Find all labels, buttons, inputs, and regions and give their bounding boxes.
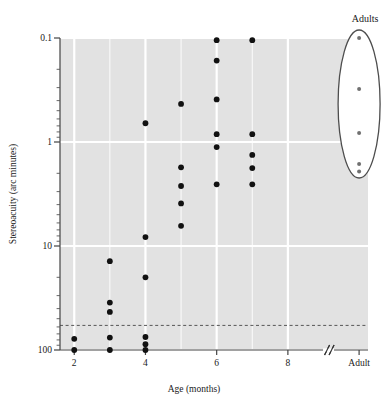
data-point-age7-28 — [249, 181, 255, 187]
y-axis: 0.1110100 — [38, 33, 60, 355]
x-tick-label-1: 4 — [143, 358, 148, 368]
data-point-age4-7 — [143, 120, 149, 126]
x-tick-label-4: Adult — [348, 358, 370, 368]
x-tick-label-3: 8 — [286, 358, 291, 368]
y-tick-label-3: 100 — [38, 345, 53, 355]
data-point-age5-16 — [178, 201, 184, 207]
data-point-age5-13 — [178, 101, 184, 107]
data-point-adult-top-0 — [357, 36, 361, 40]
data-point-age4-10 — [143, 334, 149, 340]
data-point-age7-24 — [249, 37, 255, 43]
data-point-age4-8 — [143, 234, 149, 240]
data-point-age6-18 — [214, 37, 220, 43]
data-point-age6-22 — [214, 144, 220, 150]
data-point-age7-25 — [249, 131, 255, 137]
y-tick-label-2: 10 — [43, 241, 53, 251]
data-point-age3-6 — [107, 347, 113, 353]
data-point-age6-21 — [214, 131, 220, 137]
data-point-adult-top-2 — [357, 131, 361, 135]
stereoacuity-scatter-chart: 0.1110100 2468Adult Adults Age (months)S… — [0, 0, 384, 399]
y-axis-title: Stereoacuity (arc minutes) — [8, 144, 19, 244]
data-point-age6-23 — [214, 181, 220, 187]
chart-canvas: 0.1110100 2468Adult Adults Age (months)S… — [0, 0, 384, 399]
data-point-age5-15 — [178, 183, 184, 189]
data-point-adult-top-4 — [357, 169, 361, 173]
plot-area-rect — [60, 38, 368, 350]
data-point-age4-11 — [143, 341, 149, 347]
data-point-age4-9 — [143, 274, 149, 280]
data-point-age3-3 — [107, 300, 113, 306]
data-point-age7-27 — [249, 165, 255, 171]
data-point-age5-17 — [178, 223, 184, 229]
y-tick-label-0: 0.1 — [40, 33, 52, 43]
y-tick-label-1: 1 — [47, 137, 52, 147]
data-point-age7-26 — [249, 152, 255, 158]
plot-background — [60, 38, 368, 350]
adults-annotation-label: Adults — [352, 13, 379, 24]
data-point-age6-19 — [214, 58, 220, 64]
data-point-age6-20 — [214, 97, 220, 103]
data-point-age2-0 — [71, 336, 77, 342]
adults-ellipse — [338, 30, 380, 178]
data-point-age5-14 — [178, 164, 184, 170]
x-tick-label-0: 2 — [72, 358, 77, 368]
data-point-age4-12 — [143, 347, 149, 353]
data-point-age2-1 — [71, 347, 77, 353]
data-point-age3-4 — [107, 309, 113, 315]
data-point-age3-5 — [107, 335, 113, 341]
data-point-adult-top-1 — [357, 87, 361, 91]
x-tick-label-2: 6 — [214, 358, 219, 368]
data-point-age3-2 — [107, 258, 113, 264]
x-axis-title: Age (months) — [168, 384, 221, 395]
data-point-adult-top-3 — [357, 162, 361, 166]
